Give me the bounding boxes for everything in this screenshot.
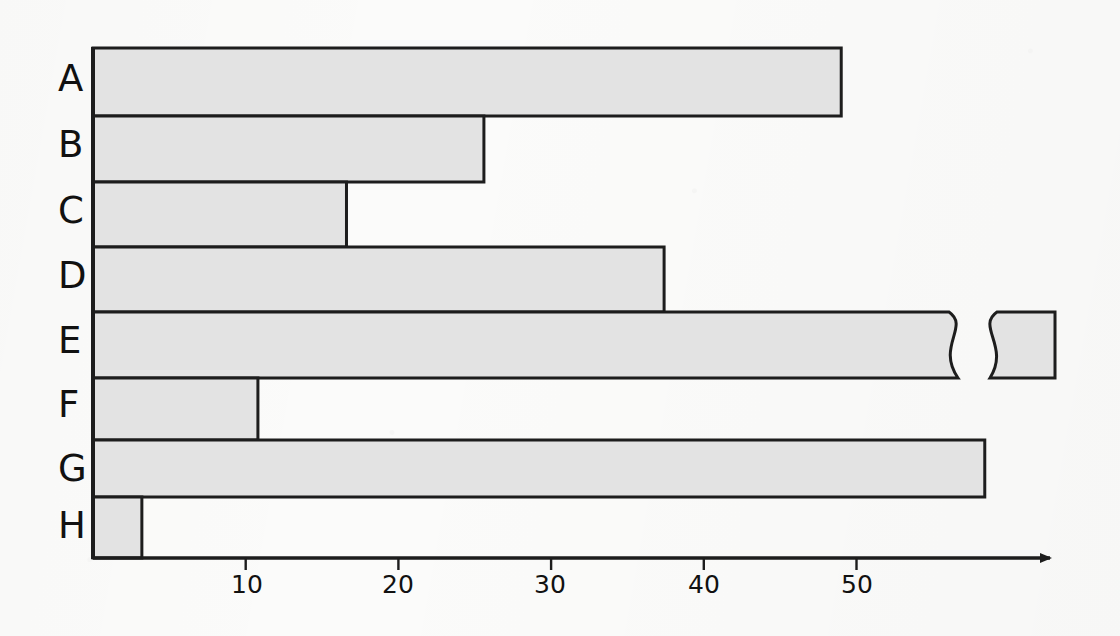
bar-f <box>93 378 258 440</box>
bar-e-body <box>93 312 958 378</box>
plot-area <box>0 0 1120 636</box>
bar-a <box>93 48 841 116</box>
bar-chart: A B C D E F G H 10 20 30 40 50 <box>0 0 1120 636</box>
bar-g <box>93 440 985 497</box>
x-axis-ticks <box>246 558 857 570</box>
bar-c <box>93 182 346 247</box>
bar-b <box>93 116 484 182</box>
bars-group <box>93 48 1055 558</box>
bar-e-tip <box>990 312 1055 378</box>
bar-d <box>93 247 664 312</box>
bar-h <box>93 497 142 558</box>
